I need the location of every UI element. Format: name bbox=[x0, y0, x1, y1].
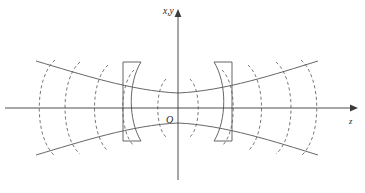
xy-axis-arrow-icon bbox=[175, 9, 182, 17]
figure-canvas: x,y z O bbox=[0, 0, 365, 193]
axes-group bbox=[5, 9, 358, 180]
mirror-group bbox=[123, 62, 232, 141]
origin-label: O bbox=[166, 114, 173, 125]
z-axis-arrow-icon bbox=[350, 105, 358, 112]
xy-axis-label: x,y bbox=[162, 6, 175, 16]
gaussian-beam-resonator-diagram: x,y z O bbox=[0, 0, 365, 193]
beam-envelope-lower bbox=[36, 123, 318, 155]
z-axis-label: z bbox=[348, 116, 353, 126]
beam-envelope-upper bbox=[36, 61, 318, 93]
